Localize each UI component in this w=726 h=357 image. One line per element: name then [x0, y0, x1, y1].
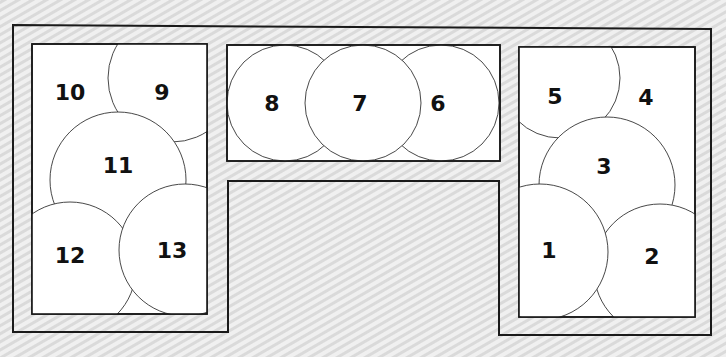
plant-label-11: 11 [103, 153, 134, 178]
plant-label-9: 9 [154, 80, 169, 105]
garden-plan-diagram: 10 9 11 12 13 8 7 6 5 4 3 1 2 [0, 0, 726, 357]
plant-label-8: 8 [264, 91, 279, 116]
plant-label-4: 4 [638, 85, 653, 110]
plant-1-circle [472, 184, 608, 320]
plant-label-6: 6 [430, 91, 445, 116]
plant-label-1: 1 [541, 238, 556, 263]
plant-label-5: 5 [547, 84, 562, 109]
plant-label-10: 10 [55, 80, 86, 105]
plant-label-12: 12 [55, 243, 86, 268]
plant-label-3: 3 [596, 154, 611, 179]
planting-plan: 10 9 11 12 13 8 7 6 5 4 3 1 2 [0, 0, 726, 357]
plant-label-13: 13 [157, 238, 188, 263]
plant-label-7: 7 [352, 91, 367, 116]
plant-label-2: 2 [644, 244, 659, 269]
